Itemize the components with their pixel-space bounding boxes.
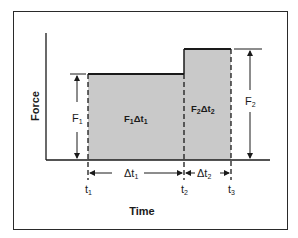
dt2-label: Δt2 <box>197 167 211 180</box>
t1-label: t1 <box>85 183 92 196</box>
f1-label: F1 <box>72 112 83 125</box>
x-axis-title: Time <box>129 205 154 217</box>
dt1-label: Δt1 <box>124 167 138 180</box>
t2-label: t2 <box>181 183 188 196</box>
impulse-diagram: F1 F2 F1Δt1 F2Δt2 Δt1 Δt2 t1 t2 t3 Time … <box>0 0 298 238</box>
y-axis-title: Force <box>29 91 41 121</box>
f2-label: F2 <box>245 95 256 108</box>
t3-label: t3 <box>228 183 235 196</box>
